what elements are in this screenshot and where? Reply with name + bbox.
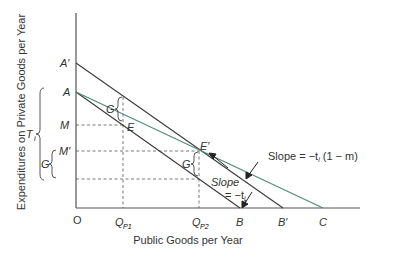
- budget-line-Aprime-Bprime: [76, 63, 283, 208]
- label-origin: O: [73, 214, 82, 226]
- label-B-prime: B′: [278, 216, 288, 228]
- brace-G-lower: [191, 152, 198, 176]
- label-Q-P1-sub: P1: [123, 223, 132, 230]
- label-B: B: [236, 216, 243, 228]
- dashed-guides: [76, 97, 199, 208]
- y-axis-title: Expenditures on Private Goods per Year: [15, 14, 27, 211]
- budget-line-A-B: [76, 92, 240, 208]
- label-Q-P2-sub: P2: [200, 223, 209, 230]
- label-M-prime: M′: [59, 145, 71, 157]
- label-M: M: [60, 119, 70, 131]
- slope-green-label: Slope = −ti (1 − m): [268, 150, 358, 163]
- slope-black-word: Slope: [211, 176, 239, 188]
- label-E: E: [127, 121, 135, 133]
- public-goods-diagram: A′ A M M′ T i G G G E E′ O Q P1 Q P2 B B…: [0, 0, 403, 261]
- label-G-lower: G: [182, 158, 191, 170]
- x-axis-title: Public Goods per Year: [133, 234, 243, 246]
- label-T: T: [26, 128, 34, 140]
- brace-G-upper: [115, 97, 122, 121]
- label-G-left: G: [41, 158, 50, 170]
- label-A: A: [62, 86, 70, 98]
- label-E-prime: E′: [200, 140, 210, 152]
- label-G-upper: G: [106, 103, 115, 115]
- label-A-prime: A′: [59, 57, 70, 69]
- slope-black-eq: = −ti: [225, 189, 246, 202]
- brace-G-left: [49, 150, 56, 178]
- label-C: C: [319, 216, 327, 228]
- label-T-sub: i: [34, 135, 36, 142]
